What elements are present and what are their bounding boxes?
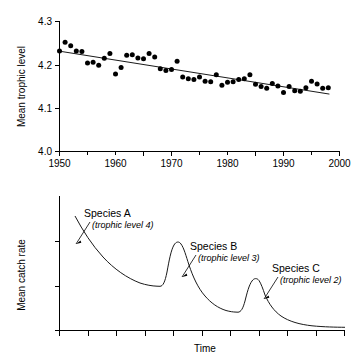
species-b-title: Species B xyxy=(190,240,237,252)
scatter-point xyxy=(203,79,208,84)
species-a-subtitle: (trophic level 4) xyxy=(92,220,154,230)
bottom-y-ticks xyxy=(55,242,60,331)
figure-canvas: 4.3 4.2 4.1 4.0 1950 1960 xyxy=(0,0,361,361)
scatter-point xyxy=(253,82,258,87)
scatter-point xyxy=(130,52,135,57)
top-y-ticks xyxy=(55,22,60,152)
scatter-point xyxy=(315,81,320,86)
species-c-subtitle: (trophic level 2) xyxy=(280,275,342,285)
scatter-point xyxy=(147,51,152,56)
bottom-y-axis-title: Mean catch rate xyxy=(16,239,27,311)
top-ytick-4-1: 4.1 xyxy=(38,103,52,114)
scatter-point xyxy=(169,67,174,72)
scatter-point xyxy=(191,77,196,82)
scatter-point xyxy=(57,48,62,53)
top-x-ticks xyxy=(60,152,340,157)
scatter-point xyxy=(320,86,325,91)
scatter-point xyxy=(219,83,224,88)
scatter-point xyxy=(74,48,79,53)
scatter-point xyxy=(298,89,303,94)
scatter-point xyxy=(287,84,292,89)
scatter-point xyxy=(275,84,280,89)
scatter-points xyxy=(57,40,331,95)
top-y-axis-title: Mean trophic level xyxy=(16,46,27,127)
species-b-leader xyxy=(182,255,196,277)
scatter-point xyxy=(102,56,107,61)
top-xtick-1970: 1970 xyxy=(160,158,183,169)
scatter-point xyxy=(119,65,124,70)
scatter-point xyxy=(158,66,163,71)
scatter-point xyxy=(124,53,129,58)
top-xtick-2000: 2000 xyxy=(328,158,351,169)
bottom-panel: Mean catch rate Time Species A (trophic … xyxy=(16,196,345,354)
top-xtick-1990: 1990 xyxy=(272,158,295,169)
scatter-point xyxy=(107,51,112,56)
top-xtick-1950: 1950 xyxy=(48,158,71,169)
scatter-point xyxy=(259,84,264,89)
scatter-point xyxy=(236,77,241,82)
top-ytick-4-0: 4.0 xyxy=(38,146,52,157)
species-c-leader xyxy=(264,277,278,299)
scatter-point xyxy=(186,76,191,81)
scatter-point xyxy=(270,81,275,86)
top-xtick-1980: 1980 xyxy=(216,158,239,169)
scatter-point xyxy=(292,88,297,93)
scatter-point xyxy=(309,79,314,84)
species-a-leader xyxy=(76,222,90,244)
scatter-point xyxy=(79,49,84,54)
top-xtick-1960: 1960 xyxy=(104,158,127,169)
scatter-point xyxy=(96,63,101,68)
scatter-point xyxy=(303,85,308,90)
top-ytick-4-3: 4.3 xyxy=(38,16,52,27)
fishing-down-food-web-figure: 4.3 4.2 4.1 4.0 1950 1960 xyxy=(0,0,361,361)
scatter-point xyxy=(63,40,68,45)
scatter-point xyxy=(152,55,157,60)
scatter-point xyxy=(225,80,230,85)
scatter-point xyxy=(175,59,180,64)
scatter-point xyxy=(214,72,219,77)
scatter-point xyxy=(247,72,252,77)
annotation-species-a: Species A (trophic level 4) xyxy=(76,207,154,244)
scatter-point xyxy=(113,71,118,76)
scatter-point xyxy=(326,85,331,90)
scatter-point xyxy=(208,79,213,84)
species-b-subtitle: (trophic level 3) xyxy=(198,253,260,263)
scatter-point xyxy=(68,43,73,48)
scatter-point xyxy=(197,74,202,79)
scatter-point xyxy=(91,60,96,65)
scatter-point xyxy=(141,56,146,61)
scatter-point xyxy=(180,74,185,79)
top-y-tick-labels: 4.3 4.2 4.1 4.0 xyxy=(38,16,52,157)
annotation-species-b: Species B (trophic level 3) xyxy=(182,240,260,277)
species-a-title: Species A xyxy=(84,207,131,219)
bottom-x-ticks xyxy=(60,331,345,337)
scatter-point xyxy=(264,86,269,91)
top-panel: 4.3 4.2 4.1 4.0 1950 1960 xyxy=(16,16,351,169)
top-x-tick-labels: 1950 1960 1970 1980 1990 2000 xyxy=(48,158,351,169)
species-c-title: Species C xyxy=(272,262,320,274)
scatter-point xyxy=(135,55,140,60)
top-ytick-4-2: 4.2 xyxy=(38,60,52,71)
bottom-x-axis-title: Time xyxy=(194,343,216,354)
scatter-point xyxy=(163,68,168,73)
scatter-point xyxy=(85,61,90,66)
scatter-point xyxy=(281,90,286,95)
annotation-species-c: Species C (trophic level 2) xyxy=(264,262,342,299)
scatter-point xyxy=(242,76,247,81)
scatter-point xyxy=(231,79,236,84)
